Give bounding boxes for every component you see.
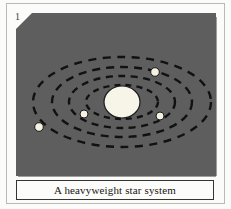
star-group xyxy=(104,86,140,118)
planet-4 xyxy=(35,123,44,132)
planet-2 xyxy=(156,112,164,120)
planet-3 xyxy=(151,68,160,77)
figure-caption-text: A heavyweight star system xyxy=(54,184,176,196)
planet-1 xyxy=(80,110,88,118)
page-rule-right xyxy=(224,3,225,204)
page-rule-bottom xyxy=(6,203,225,204)
page-rule-top xyxy=(6,3,225,4)
page-rule-left xyxy=(6,3,7,204)
figure-page: 1 A heavyweight star system xyxy=(0,0,231,209)
orbit-diagram xyxy=(16,13,216,176)
figure-number-label: 1 xyxy=(15,11,20,22)
figure-caption-box: A heavyweight star system xyxy=(16,180,214,200)
star-system-illustration xyxy=(16,13,216,176)
planet-group xyxy=(35,68,164,132)
central-star xyxy=(104,86,140,118)
